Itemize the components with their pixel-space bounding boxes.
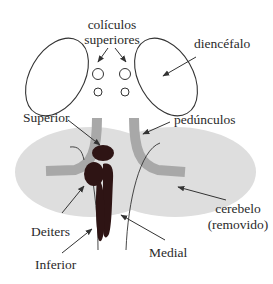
arrow-colliculi-left [98, 48, 108, 62]
label-coliculos-line2: superiores [84, 32, 139, 47]
inferior-colliculus-left [94, 88, 102, 96]
superior-colliculus-right [120, 69, 131, 80]
label-inferior: Inferior [35, 257, 77, 272]
label-deiters: Deiters [31, 224, 70, 239]
label-coliculos-line1: colículos [88, 17, 137, 32]
label-pedunculos: pedúnculos [174, 112, 236, 127]
vestibular-diagram: colículos superiores diencéfalo Superior… [0, 0, 273, 284]
label-diencefalo: diencéfalo [194, 36, 250, 51]
nucleus-medial [103, 164, 113, 238]
diagram-canvas: colículos superiores diencéfalo Superior… [0, 0, 273, 284]
superior-colliculus-left [93, 69, 104, 80]
label-cerebelo-line2: (removido) [208, 217, 269, 232]
nucleus-superior [92, 145, 114, 161]
nucleus-deiters [84, 162, 104, 186]
label-superior: Superior [23, 110, 70, 125]
label-cerebelo-line1: cerebelo [215, 201, 261, 216]
inferior-colliculus-right [121, 88, 129, 96]
label-medial: Medial [149, 245, 187, 260]
arrow-colliculi-right [115, 48, 126, 62]
